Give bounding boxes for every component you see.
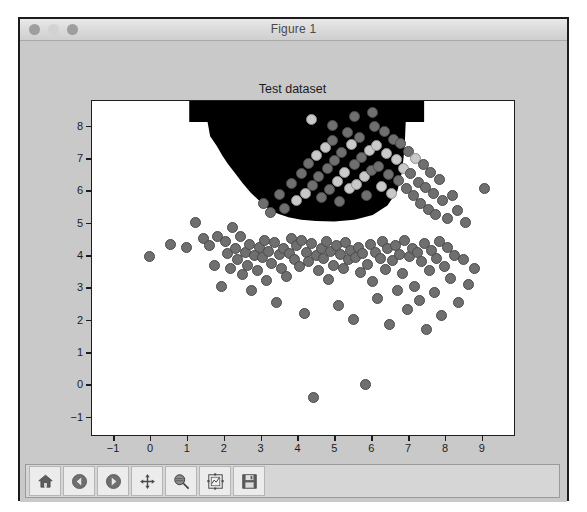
scatter-point xyxy=(452,205,463,216)
scatter-point xyxy=(373,161,384,172)
scatter-point xyxy=(306,114,317,125)
scatter-point xyxy=(439,261,450,272)
x-tick xyxy=(150,436,152,441)
scatter-point xyxy=(369,121,380,132)
x-tick xyxy=(445,436,447,441)
scatter-point xyxy=(367,276,378,287)
x-tick xyxy=(261,436,263,441)
x-tick-label: 6 xyxy=(368,442,374,454)
subplot-config-icon xyxy=(207,473,224,490)
scatter-point xyxy=(342,127,353,138)
scatter-point xyxy=(313,265,324,276)
scatter-point xyxy=(216,281,227,292)
scatter-point xyxy=(334,196,345,207)
scatter-point xyxy=(371,140,382,151)
floppy-save-icon xyxy=(241,473,258,490)
scatter-point xyxy=(336,147,347,158)
y-tick-label: 1 xyxy=(63,346,83,358)
scatter-point xyxy=(379,126,390,137)
y-tick xyxy=(86,320,91,322)
window-title: Figure 1 xyxy=(20,22,567,36)
x-tick-label: 7 xyxy=(405,442,411,454)
scatter-point xyxy=(311,150,322,161)
x-tick xyxy=(371,436,373,441)
magnifier-icon xyxy=(173,473,190,490)
scatter-point xyxy=(299,308,310,319)
right-arrow-icon xyxy=(105,473,122,490)
y-tick-label: 7 xyxy=(63,152,83,164)
y-tick xyxy=(86,384,91,386)
plot-title: Test dataset xyxy=(25,82,560,96)
window-titlebar[interactable]: Figure 1 xyxy=(20,19,567,41)
subplots-button[interactable] xyxy=(199,466,231,496)
scatter-point xyxy=(261,275,272,286)
scatter-point xyxy=(463,279,474,290)
x-tick xyxy=(482,436,484,441)
y-tick-label: −1 xyxy=(63,411,83,423)
scatter-point xyxy=(409,281,420,292)
scatter-point xyxy=(402,304,413,315)
scatter-point xyxy=(460,217,471,228)
x-tick-label: 2 xyxy=(221,442,227,454)
scatter-point xyxy=(181,242,192,253)
y-tick xyxy=(86,223,91,225)
scatter-point xyxy=(281,271,292,282)
back-button[interactable] xyxy=(63,466,95,496)
scatter-point xyxy=(447,190,458,201)
x-tick-label: 5 xyxy=(331,442,337,454)
scatter-point xyxy=(469,263,480,274)
zoom-button[interactable] xyxy=(165,466,197,496)
y-tick-label: 2 xyxy=(63,314,83,326)
x-tick-label: 8 xyxy=(442,442,448,454)
scatter-point xyxy=(144,251,155,262)
x-tick-label: 4 xyxy=(294,442,300,454)
scatter-point xyxy=(436,310,447,321)
scatter-points xyxy=(92,101,514,435)
scatter-point xyxy=(386,188,397,199)
scatter-point xyxy=(327,120,338,131)
x-tick-label: 9 xyxy=(479,442,485,454)
move-cross-icon xyxy=(139,473,156,490)
scatter-point xyxy=(308,392,319,403)
navigation-toolbar xyxy=(25,464,560,498)
scatter-point xyxy=(333,300,344,311)
scatter-point xyxy=(246,285,257,296)
y-tick xyxy=(86,158,91,160)
home-button[interactable] xyxy=(29,466,61,496)
scatter-point xyxy=(376,181,387,192)
y-tick-label: 0 xyxy=(63,378,83,390)
scatter-point xyxy=(414,295,425,306)
y-tick xyxy=(86,352,91,354)
x-tick-label: 0 xyxy=(147,442,153,454)
scatter-point xyxy=(380,264,391,275)
x-tick xyxy=(297,436,299,441)
scatter-point xyxy=(204,240,215,251)
scatter-point xyxy=(271,297,282,308)
scatter-point xyxy=(375,253,386,264)
y-tick xyxy=(86,417,91,419)
x-tick xyxy=(113,436,115,441)
scatter-point xyxy=(381,148,392,159)
figure-window: Figure 1 Test dataset −10123456789 −1012… xyxy=(18,17,569,501)
y-tick xyxy=(86,190,91,192)
scatter-point xyxy=(445,273,456,284)
x-tick xyxy=(408,436,410,441)
y-tick-label: 3 xyxy=(63,281,83,293)
pan-button[interactable] xyxy=(131,466,163,496)
forward-button[interactable] xyxy=(97,466,129,496)
scatter-point xyxy=(327,135,338,146)
scatter-point xyxy=(360,379,371,390)
scatter-point xyxy=(296,168,307,179)
scatter-point xyxy=(362,259,373,270)
scatter-point xyxy=(357,248,368,259)
scatter-point xyxy=(279,203,290,214)
y-tick xyxy=(86,126,91,128)
scatter-point xyxy=(442,213,453,224)
figure-canvas[interactable]: Test dataset −10123456789 −1012345678 xyxy=(25,46,560,456)
x-tick xyxy=(224,436,226,441)
scatter-point xyxy=(392,285,403,296)
scatter-point xyxy=(323,274,334,285)
scatter-point xyxy=(434,174,445,185)
save-button[interactable] xyxy=(233,466,265,496)
x-tick-label: 1 xyxy=(184,442,190,454)
